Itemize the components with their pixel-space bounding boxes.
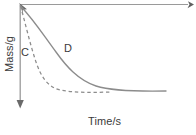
time-axis-arrowhead-icon	[188, 1, 195, 8]
curve-d-path	[21, 6, 167, 91]
curve-label-c: C	[21, 46, 29, 58]
mass-axis-arrowhead-icon	[17, 100, 24, 109]
curve-label-d: D	[64, 42, 72, 54]
x-axis-label: Time/s	[88, 115, 121, 127]
y-axis-label: Mass/g	[3, 31, 15, 77]
graph-figure: Mass/g Time/s C D	[0, 0, 196, 135]
